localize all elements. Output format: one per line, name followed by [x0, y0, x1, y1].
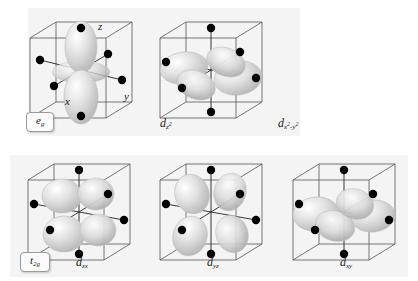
caption-dyz-sub: yz — [213, 262, 219, 270]
caption-dz2: dz2 — [160, 116, 172, 132]
caption-dzx: dzx — [76, 255, 88, 271]
caption-dyz: dyz — [207, 255, 219, 271]
set-badge-eg-sub: g — [41, 120, 45, 128]
caption-dz2-sup-text: 2 — [169, 121, 172, 127]
set-badge-eg: eg — [26, 112, 54, 132]
axis-label-z: z — [98, 20, 102, 32]
d-orbital-figure: z x y — [0, 0, 418, 281]
caption-dx2y2-sub: x2-y2 — [284, 123, 299, 131]
caption-dxy: dxy — [340, 255, 352, 271]
caption-dxy-sub: xy — [346, 262, 352, 270]
set-badge-t2g-sub: 2g — [33, 260, 40, 268]
caption-dzx-sub: zx — [82, 262, 88, 270]
axis-label-x: x — [65, 95, 70, 107]
set-badge-t2g: t2g — [20, 252, 50, 272]
caption-dx2y2: dx2-y2 — [278, 116, 299, 132]
axis-label-y: y — [124, 90, 129, 102]
caption-dx2y2-sup-text: 2 — [287, 121, 290, 127]
caption-dx2y2-sup2-text: 2 — [296, 121, 299, 127]
caption-dz2-sub: z2 — [166, 123, 172, 131]
caption-dx2y2-sub2-text: -y — [290, 123, 295, 131]
